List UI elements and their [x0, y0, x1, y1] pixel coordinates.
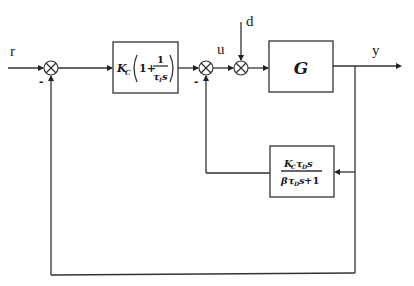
arrow-head-icon [193, 65, 199, 71]
disturbance-signal-label: d [246, 13, 254, 29]
control-signal-label: u [217, 41, 225, 57]
pid-frac-den-s: s [162, 71, 168, 82]
pid-gain-sub: C [125, 68, 131, 77]
reference-signal-label: r [10, 43, 15, 59]
arrow-head-icon [334, 169, 340, 175]
deriv-den-plus-one: +1 [304, 175, 319, 186]
sum2-minus-sign: - [194, 74, 198, 89]
summing-junction-2 [199, 61, 213, 75]
outer-feedback-bottom [51, 273, 355, 275]
derivative-feedback-block: K C τ D s β τ D s +1 [270, 146, 334, 197]
disturbance-junction [234, 61, 248, 75]
summing-junction-1 [44, 61, 58, 75]
plant-label: G [294, 58, 309, 78]
arrow-head-icon [48, 75, 54, 81]
arrow-head-icon [263, 65, 269, 71]
arrow-head-icon [238, 55, 244, 61]
output-signal-label: y [372, 42, 380, 58]
pid-frac-num: 1 [157, 54, 164, 65]
sum1-minus-sign: - [39, 74, 43, 89]
deriv-den-beta: β [280, 175, 288, 186]
arrow-head-icon [38, 65, 44, 71]
arrow-head-icon [203, 75, 209, 81]
deriv-num-s: s [307, 158, 313, 169]
plant-block: G [269, 41, 333, 92]
arrow-head-icon [228, 65, 234, 71]
pid-controller-block: K C 1+ 1 τ I s [113, 42, 178, 93]
arrow-head-icon [107, 65, 113, 71]
control-block-diagram: r - K C 1+ 1 τ I s - u d [0, 0, 414, 286]
arrow-head-icon [396, 63, 402, 69]
